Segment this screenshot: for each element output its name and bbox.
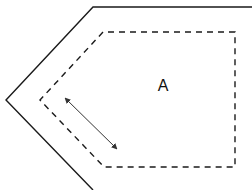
diagram-canvas: A [0,0,252,190]
diagram-svg [0,0,252,190]
dimension-arrow [65,98,117,149]
outer-boundary-line [6,7,252,190]
region-label-a: A [158,78,169,94]
inner-dashed-region [40,32,235,167]
